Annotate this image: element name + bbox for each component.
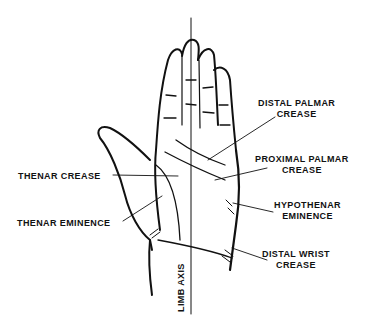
label-distal-wrist-crease: DISTAL WRIST CREASE (262, 249, 330, 271)
hand-anatomy-diagram: DISTAL PALMAR CREASE PROXIMAL PALMAR CRE… (0, 0, 373, 322)
label-hypothenar-eminence: HYPOTHENAR EMINENCE (274, 200, 341, 222)
label-limb-axis: LIMB AXIS (176, 263, 187, 312)
label-thenar-eminence: THENAR EMINENCE (17, 218, 111, 229)
label-proximal-palmar-crease: PROXIMAL PALMAR CREASE (255, 154, 349, 176)
label-distal-palmar-crease: DISTAL PALMAR CREASE (258, 98, 335, 120)
label-thenar-crease: THENAR CREASE (18, 171, 101, 182)
